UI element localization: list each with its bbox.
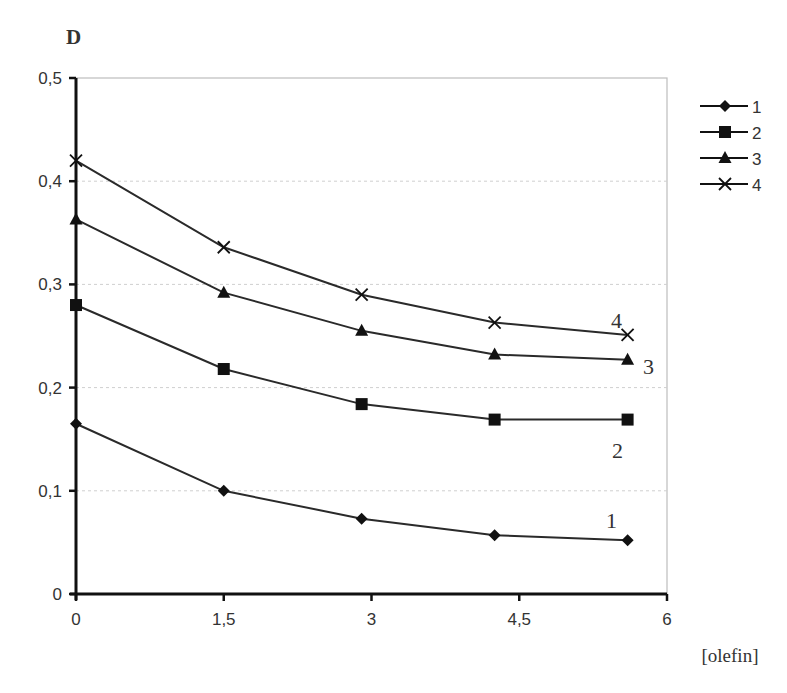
x-tick-label: 6	[662, 610, 671, 629]
series-2-line	[76, 305, 628, 420]
diamond-marker-icon	[356, 513, 368, 525]
x-tick-label: 0	[71, 610, 80, 629]
series-4-line	[76, 161, 628, 335]
x-axis-title: [olefin]	[702, 645, 759, 666]
y-tick-label: 0,3	[38, 275, 62, 294]
square-marker-icon	[218, 363, 230, 375]
legend-square-icon	[719, 126, 731, 138]
legend-label: 2	[752, 124, 761, 143]
triangle-marker-icon	[217, 286, 230, 298]
plot-area	[76, 78, 667, 594]
diamond-marker-icon	[489, 529, 501, 541]
legend-label: 3	[752, 150, 761, 169]
line-chart: 00,10,20,30,40,501,534,56D[olefin]123412…	[0, 0, 787, 693]
x-tick-label: 4,5	[507, 610, 531, 629]
curve-label: 2	[612, 438, 623, 463]
y-axis-title: D	[66, 25, 81, 49]
series-3-line	[76, 219, 628, 359]
curve-label: 4	[611, 308, 622, 333]
series-1-line	[76, 424, 628, 541]
diamond-marker-icon	[622, 534, 634, 546]
curve-label: 3	[643, 354, 654, 379]
triangle-marker-icon	[70, 212, 83, 224]
square-marker-icon	[356, 398, 368, 410]
legend-diamond-icon	[719, 100, 731, 112]
square-marker-icon	[70, 299, 82, 311]
y-tick-label: 0,1	[38, 482, 62, 501]
y-tick-label: 0,2	[38, 379, 62, 398]
x-tick-label: 1,5	[212, 610, 236, 629]
diamond-marker-icon	[70, 418, 82, 430]
legend-label: 4	[752, 176, 761, 195]
diamond-marker-icon	[218, 485, 230, 497]
curve-label: 1	[606, 508, 617, 533]
square-marker-icon	[622, 414, 634, 426]
y-tick-label: 0	[53, 585, 62, 604]
legend-label: 1	[752, 98, 761, 117]
x-tick-label: 3	[367, 610, 376, 629]
y-tick-label: 0,4	[38, 172, 62, 191]
y-tick-label: 0,5	[38, 69, 62, 88]
square-marker-icon	[489, 414, 501, 426]
